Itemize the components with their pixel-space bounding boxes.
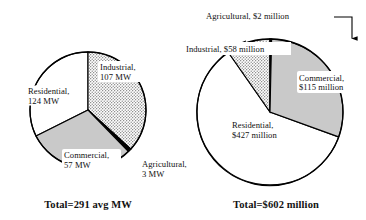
left-pie-chart: Residential, 124 MW Industrial, 107 MW C… [27, 52, 187, 210]
right-chart-caption: Total=$602 million [233, 199, 319, 210]
right-label-industrial-text: Industrial, $58 million [186, 44, 265, 54]
left-label-agricultural-line1: Agricultural, [142, 159, 187, 169]
right-label-residential-line1: Residential, [232, 120, 273, 130]
right-label-agricultural-text: Agricultural, $2 million [206, 11, 290, 21]
left-label-agricultural-line2: 3 MW [142, 169, 165, 179]
left-label-residential-line2: 124 MW [28, 96, 60, 106]
left-label-industrial-line1: Industrial, [100, 62, 136, 72]
right-label-residential: Residential, $427 million [232, 120, 277, 140]
left-label-agricultural: Agricultural, 3 MW [142, 159, 187, 179]
right-agricultural-callout [334, 17, 352, 39]
left-chart-caption: Total=291 avg MW [44, 199, 132, 210]
right-label-agricultural: Agricultural, $2 million [204, 9, 334, 22]
left-label-residential: Residential, 124 MW [27, 86, 85, 106]
left-label-commercial: Commercial, 57 MW [62, 149, 121, 170]
left-label-residential-line1: Residential, [28, 86, 69, 96]
left-label-industrial-line2: 107 MW [100, 72, 132, 82]
left-label-commercial-line2: 57 MW [64, 160, 92, 170]
right-label-residential-line2: $427 million [232, 130, 277, 140]
right-label-commercial: Commercial, $115 million [297, 71, 365, 93]
left-label-commercial-line1: Commercial, [64, 150, 109, 160]
right-pie-chart: Agricultural, $2 million Industrial, $58… [185, 9, 365, 210]
left-label-industrial: Industrial, 107 MW [98, 61, 151, 82]
right-label-industrial: Industrial, $58 million [185, 42, 291, 55]
two-pie-chart-figure: Residential, 124 MW Industrial, 107 MW C… [0, 0, 366, 220]
right-label-commercial-line2: $115 million [299, 82, 344, 92]
right-label-commercial-line1: Commercial, [299, 73, 344, 83]
